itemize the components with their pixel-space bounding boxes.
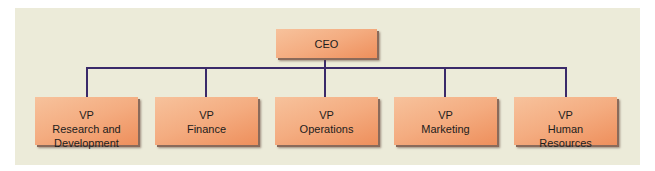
org-node-department: Research and (52, 122, 121, 136)
org-node-department-line2: Development (54, 136, 119, 150)
connector-drop-marketing (444, 67, 446, 97)
org-node-department: Human (548, 122, 583, 136)
org-node-department-line2: Resources (539, 136, 592, 150)
connector-drop-hr (565, 67, 567, 97)
org-node-vp-human-resources: VP Human Resources (514, 97, 617, 145)
org-node-label: CEO (315, 37, 339, 51)
connector-drop-research (86, 67, 88, 97)
connector-drop-finance (205, 67, 207, 97)
org-node-title: VP (558, 108, 573, 122)
org-node-vp-marketing: VP Marketing (394, 97, 497, 145)
org-node-title: VP (199, 108, 214, 122)
org-node-vp-finance: VP Finance (155, 97, 258, 145)
org-node-title: VP (79, 108, 94, 122)
org-node-vp-operations: VP Operations (275, 97, 378, 145)
connector-horizontal-bus (86, 67, 567, 69)
connector-drop-operations (324, 67, 326, 97)
org-node-title: VP (438, 108, 453, 122)
org-node-department: Finance (187, 122, 226, 136)
org-node-vp-research-development: VP Research and Development (35, 97, 138, 145)
org-node-department: Operations (300, 122, 354, 136)
org-node-department: Marketing (421, 122, 469, 136)
org-node-ceo: CEO (276, 29, 377, 58)
org-node-title: VP (319, 108, 334, 122)
